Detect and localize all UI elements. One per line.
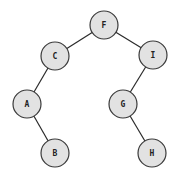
node-label: F	[102, 21, 107, 30]
tree-node-f: F	[90, 11, 118, 39]
tree-node-h: H	[138, 139, 166, 167]
binary-tree-diagram: FCIAGBH	[0, 0, 182, 177]
tree-node-i: I	[139, 41, 167, 69]
edges	[27, 25, 153, 153]
tree-node-g: G	[109, 90, 137, 118]
tree-node-b: B	[41, 139, 69, 167]
node-label: A	[25, 100, 30, 109]
tree-node-c: C	[41, 42, 69, 70]
node-label: H	[150, 149, 155, 158]
node-label: C	[53, 52, 58, 61]
tree-node-a: A	[13, 90, 41, 118]
node-label: G	[121, 100, 126, 109]
node-label: B	[53, 149, 58, 158]
node-label: I	[151, 51, 156, 60]
